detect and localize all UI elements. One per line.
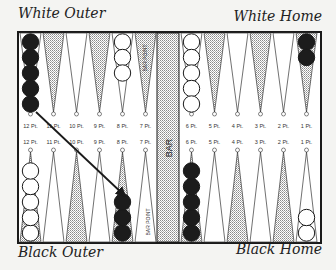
point-tip-icon (190, 148, 194, 152)
white-checker[interactable] (298, 225, 314, 241)
point-tip-icon (282, 148, 286, 152)
point-label: 7 Pt. (140, 139, 152, 145)
point-label: 5 Pt. (209, 123, 221, 129)
black-checker[interactable] (22, 49, 38, 65)
point-tip-icon (305, 112, 309, 116)
white-checker[interactable] (22, 225, 38, 241)
white-checker[interactable] (183, 34, 199, 50)
point-label: 9 Pt. (94, 123, 106, 129)
point-tip-icon (29, 148, 33, 152)
point-label: 10 Pt. (69, 139, 84, 145)
bar-label: BAR (164, 138, 174, 157)
point-tip-icon (75, 112, 79, 116)
white-checker[interactable] (183, 80, 199, 96)
white-checker[interactable] (298, 209, 314, 225)
point-tip-icon (213, 148, 217, 152)
black-checker[interactable] (183, 194, 199, 210)
black-checker[interactable] (183, 209, 199, 225)
point-label: 8 Pt. (117, 123, 129, 129)
point-label: 4 Pt. (232, 123, 244, 129)
white-checker[interactable] (114, 65, 130, 81)
point-tip-icon (52, 148, 56, 152)
white-checker[interactable] (183, 65, 199, 81)
point-tip-icon (282, 112, 286, 116)
point-label: 8 Pt. (117, 139, 129, 145)
point-label: 6 Pt. (186, 139, 198, 145)
point-tip-icon (98, 112, 102, 116)
black-checker[interactable] (298, 49, 314, 65)
point-label: 2 Pt. (278, 139, 290, 145)
white-checker[interactable] (114, 34, 130, 50)
backgammon-board: 12 Pt.11 Pt.10 Pt.9 Pt.8 Pt.7 Pt.6 Pt.5 … (0, 0, 336, 270)
point-label: 3 Pt. (255, 123, 267, 129)
point-tip-icon (259, 148, 263, 152)
bottom-bar-point-label: BAR POINT (145, 209, 151, 236)
white-checker[interactable] (114, 49, 130, 65)
point-label: 2 Pt. (278, 123, 290, 129)
point-label: 3 Pt. (255, 139, 267, 145)
point-tip-icon (144, 112, 148, 116)
black-checker[interactable] (22, 96, 38, 112)
white-checker[interactable] (22, 163, 38, 179)
point-tip-icon (121, 148, 125, 152)
point-label: 12 Pt. (23, 139, 38, 145)
point-tip-icon (121, 112, 125, 116)
point-label: 4 Pt. (232, 139, 244, 145)
point-tip-icon (52, 112, 56, 116)
top-bar-point-label: BAR POINT (142, 45, 148, 72)
point-label: 10 Pt. (69, 123, 84, 129)
white-checker[interactable] (183, 49, 199, 65)
black-checker[interactable] (114, 194, 130, 210)
point-label: 1 Pt. (301, 139, 313, 145)
black-checker[interactable] (22, 65, 38, 81)
white-checker[interactable] (22, 194, 38, 210)
black-checker[interactable] (298, 34, 314, 50)
point-tip-icon (98, 148, 102, 152)
black-checker[interactable] (22, 80, 38, 96)
point-tip-icon (305, 148, 309, 152)
point-tip-icon (213, 112, 217, 116)
point-label: 5 Pt. (209, 139, 221, 145)
point-label: 7 Pt. (140, 123, 152, 129)
black-checker[interactable] (183, 178, 199, 194)
point-tip-icon (259, 112, 263, 116)
point-label: 12 Pt. (23, 123, 38, 129)
black-checker[interactable] (114, 225, 130, 241)
point-label: 1 Pt. (301, 123, 313, 129)
point-tip-icon (144, 148, 148, 152)
point-label: 9 Pt. (94, 139, 106, 145)
point-tip-icon (236, 148, 240, 152)
black-checker[interactable] (22, 34, 38, 50)
white-checker[interactable] (22, 178, 38, 194)
point-label: 11 Pt. (47, 139, 61, 145)
white-checker[interactable] (22, 209, 38, 225)
center-bar (157, 33, 179, 242)
point-tip-icon (236, 112, 240, 116)
black-checker[interactable] (183, 225, 199, 241)
black-checker[interactable] (183, 163, 199, 179)
point-label: 6 Pt. (186, 123, 198, 129)
black-checker[interactable] (114, 209, 130, 225)
white-checker[interactable] (183, 96, 199, 112)
